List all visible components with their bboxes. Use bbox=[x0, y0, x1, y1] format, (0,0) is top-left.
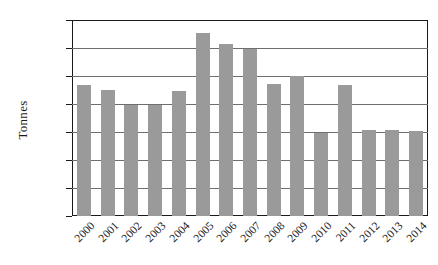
bar-2006 bbox=[219, 44, 233, 216]
bar-2001 bbox=[101, 90, 115, 216]
bar-2005 bbox=[196, 33, 210, 216]
bar-2013 bbox=[385, 130, 399, 216]
bar-2014 bbox=[409, 131, 423, 216]
bars-series bbox=[72, 20, 428, 216]
bar-2003 bbox=[148, 105, 162, 216]
y-tick-mark bbox=[66, 216, 72, 217]
bar-chart: Tonnes 70,00060,00050,00040,00030,00020,… bbox=[0, 0, 438, 265]
bar-2012 bbox=[362, 130, 376, 216]
bar-2008 bbox=[267, 84, 281, 216]
bar-2010 bbox=[314, 133, 328, 216]
y-axis-title: Tonnes bbox=[15, 75, 31, 165]
bar-2000 bbox=[77, 85, 91, 216]
bar-2004 bbox=[172, 91, 186, 216]
bar-2009 bbox=[290, 76, 304, 216]
bar-2002 bbox=[124, 105, 138, 216]
bar-2011 bbox=[338, 85, 352, 216]
bar-2007 bbox=[243, 49, 257, 216]
